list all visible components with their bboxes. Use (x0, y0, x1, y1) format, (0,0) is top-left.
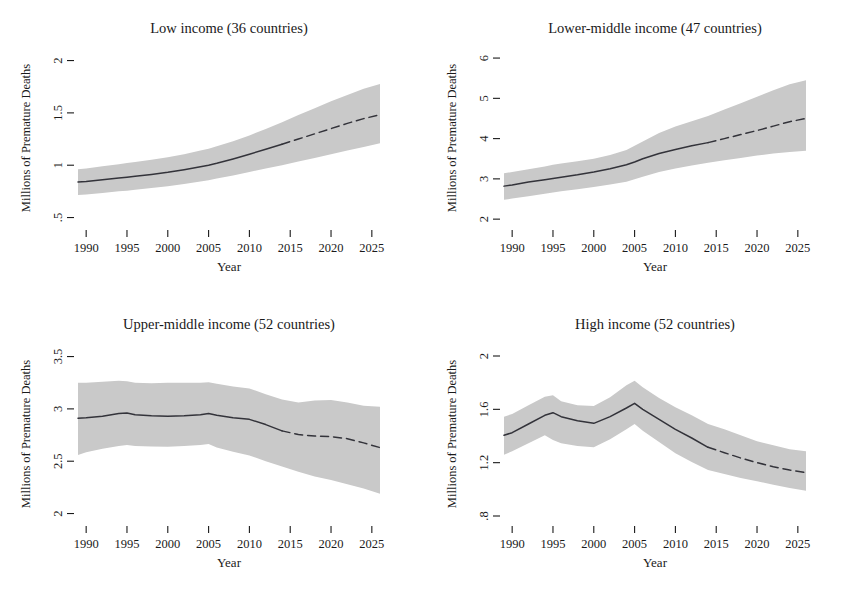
x-axis-title: Year (217, 555, 242, 570)
x-tick-label: 2000 (155, 241, 180, 255)
x-axis-title: Year (643, 259, 668, 274)
y-tick-label: 2 (51, 57, 65, 63)
y-tick-label: 2 (477, 353, 491, 359)
x-tick-label: 2025 (785, 537, 810, 551)
x-axis-title: Year (643, 555, 668, 570)
x-tick-label: 2005 (196, 537, 221, 551)
y-tick-label: 6 (477, 55, 491, 61)
y-axis-title: Millions of Premature Deaths (445, 64, 459, 212)
panel-title: Lower-middle income (47 countries) (548, 20, 762, 37)
x-tick-label: 2025 (785, 241, 810, 255)
y-tick-label: 1.5 (51, 105, 65, 121)
chart-panel-low-income: Low income (36 countries)199019952000200… (0, 0, 426, 295)
x-tick-label: 2020 (319, 537, 344, 551)
chart-panel-high-income: High income (52 countries)19901995200020… (426, 296, 852, 591)
y-axis-title: Millions of Premature Deaths (445, 360, 459, 508)
x-tick-label: 1990 (74, 537, 99, 551)
x-tick-label: 2005 (622, 537, 647, 551)
y-tick-label: 4 (477, 135, 491, 142)
y-tick-label: 1 (51, 162, 65, 168)
y-tick-label: 3 (477, 176, 491, 182)
chart-panel-upper-middle-income: Upper-middle income (52 countries)199019… (0, 296, 426, 591)
y-tick-label: 2.5 (51, 453, 65, 469)
x-tick-label: 2025 (359, 241, 384, 255)
y-tick-label: .8 (477, 511, 491, 520)
x-tick-label: 2015 (278, 537, 303, 551)
x-tick-label: 2010 (237, 537, 262, 551)
y-tick-label: 1.2 (477, 455, 491, 471)
y-tick-label: 2 (51, 510, 65, 516)
x-tick-label: 2010 (663, 241, 688, 255)
x-tick-label: 2005 (622, 241, 647, 255)
y-axis-title: Millions of Premature Deaths (19, 64, 33, 212)
x-tick-label: 1995 (114, 537, 139, 551)
x-tick-label: 2020 (319, 241, 344, 255)
y-tick-label: 5 (477, 95, 491, 101)
confidence-band (504, 80, 806, 200)
x-tick-label: 1995 (114, 241, 139, 255)
panel-title: Upper-middle income (52 countries) (123, 316, 335, 333)
confidence-band (78, 84, 380, 195)
y-tick-label: 2 (477, 216, 491, 222)
x-tick-label: 2015 (278, 241, 303, 255)
panel-title: Low income (36 countries) (150, 20, 308, 37)
figure-panel-grid: Low income (36 countries)199019952000200… (0, 0, 852, 591)
y-tick-label: .5 (51, 213, 65, 222)
x-tick-label: 2010 (237, 241, 262, 255)
x-tick-label: 2005 (196, 241, 221, 255)
x-tick-label: 2015 (704, 537, 729, 551)
x-tick-label: 2000 (581, 537, 606, 551)
confidence-band (504, 381, 806, 491)
x-tick-label: 2010 (663, 537, 688, 551)
x-tick-label: 1990 (74, 241, 99, 255)
chart-panel-lower-middle-income: Lower-middle income (47 countries)199019… (426, 0, 852, 295)
y-tick-label: 1.6 (477, 402, 491, 418)
x-tick-label: 2025 (359, 537, 384, 551)
y-tick-label: 3 (51, 406, 65, 412)
panel-title: High income (52 countries) (575, 316, 735, 333)
x-tick-label: 1995 (540, 241, 565, 255)
x-tick-label: 2000 (155, 537, 180, 551)
x-tick-label: 1990 (500, 241, 525, 255)
x-tick-label: 2015 (704, 241, 729, 255)
x-tick-label: 2000 (581, 241, 606, 255)
x-tick-label: 1990 (500, 537, 525, 551)
x-axis-title: Year (217, 259, 242, 274)
y-tick-label: 3.5 (51, 349, 65, 365)
x-tick-label: 2020 (745, 241, 770, 255)
x-tick-label: 1995 (540, 537, 565, 551)
x-tick-label: 2020 (745, 537, 770, 551)
y-axis-title: Millions of Premature Deaths (19, 360, 33, 508)
